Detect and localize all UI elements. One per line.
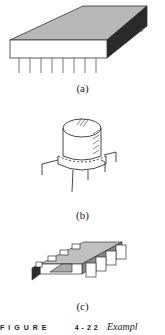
flat-pack-diagram: [0, 240, 165, 300]
panel-a-label: (a): [0, 82, 165, 94]
caption-figure-number: 4-22: [75, 324, 101, 331]
flat-package-diagram: [0, 0, 165, 80]
figure-caption: FIGURE 4-22 Exampl: [0, 321, 165, 332]
panel-b-label: (b): [0, 209, 165, 221]
panel-c-label: (c): [0, 300, 165, 312]
caption-text: Exampl: [107, 321, 138, 332]
caption-figure-word: FIGURE: [0, 324, 50, 331]
metal-can-package-diagram: [0, 112, 165, 202]
